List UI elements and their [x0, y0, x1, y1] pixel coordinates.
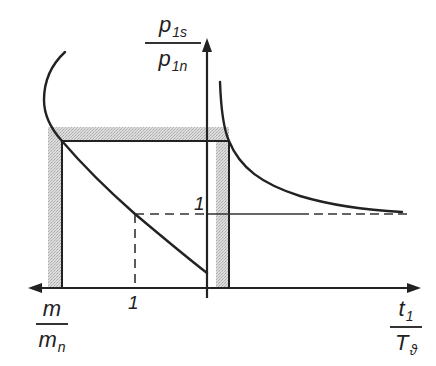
y-tick-one: 1: [194, 193, 205, 215]
time-ratio-curve: [220, 82, 402, 212]
x-right-num-base: t: [399, 296, 405, 321]
y-num-subscript: 1s: [172, 24, 187, 40]
x-axis-arrow-left: [28, 283, 42, 293]
x-right-numerator: t1: [399, 298, 414, 323]
band-top-horizontal: [48, 127, 229, 141]
y-axis-arrow-up: [202, 38, 212, 52]
x-axis-left-label: m mn: [36, 298, 68, 354]
x-right-denominator: Tϑ: [395, 332, 417, 357]
x-left-den-subscript: n: [58, 339, 66, 355]
x-left-denominator: mn: [38, 329, 65, 354]
y-label-fraction-bar: [145, 42, 201, 44]
x-tick-one: 1: [128, 292, 139, 314]
y-den-base: p: [159, 46, 171, 71]
y-axis-label: p1s p1n: [145, 14, 201, 73]
x-axis-arrow-right: [407, 283, 421, 293]
x-right-fraction-bar: [390, 326, 422, 328]
x-left-numerator: m: [43, 298, 61, 320]
x-left-num-base: m: [43, 296, 61, 321]
reference-lines: [135, 214, 412, 288]
x-right-den-subscript: ϑ: [409, 342, 417, 358]
y-num-base: p: [159, 12, 171, 37]
band-left-vertical: [48, 127, 62, 288]
x-left-den-base: m: [38, 327, 56, 352]
y-den-subscript: 1n: [172, 58, 188, 74]
x-axis-right-label: t1 Tϑ: [390, 298, 422, 357]
y-label-denominator: p1n: [159, 48, 188, 73]
x-right-den-base: T: [395, 330, 408, 355]
band-right-vertical: [216, 127, 229, 288]
x-right-num-subscript: 1: [406, 308, 414, 324]
mass-ratio-curve: [44, 52, 207, 273]
x-left-fraction-bar: [36, 323, 68, 325]
y-label-numerator: p1s: [159, 14, 187, 39]
